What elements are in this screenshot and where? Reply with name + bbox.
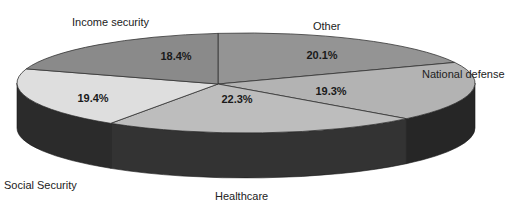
value-label-social-security: 19.4%	[77, 92, 108, 104]
name-label-other: Other	[313, 20, 341, 32]
name-label-income-security: Income security	[72, 16, 150, 28]
name-label-national-defense: National defense	[422, 68, 505, 80]
value-label-income-security: 18.4%	[160, 50, 191, 62]
pie-chart: 18.4%20.1%19.3%22.3%19.4% Income securit…	[0, 0, 514, 216]
value-label-other: 20.1%	[306, 49, 337, 61]
value-label-healthcare: 22.3%	[221, 93, 252, 105]
name-label-social-security: Social Security	[4, 179, 77, 191]
pie-top-faces	[17, 33, 475, 133]
value-label-national-defense: 19.3%	[315, 85, 346, 97]
name-label-healthcare: Healthcare	[215, 190, 268, 202]
